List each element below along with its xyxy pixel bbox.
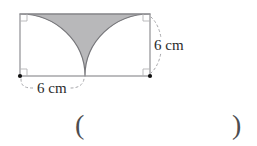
right-side-length-label: 6 cm [154,37,184,53]
answer-open-paren: ( [75,109,84,140]
bottom-length-label: 6 cm [37,80,67,96]
right-angle-mark-top-right-icon [143,14,150,21]
measure-leader-bottom-left [21,79,33,88]
worksheet-figure: 6 cm 6 cm ( ) [0,0,257,146]
shaded-region [20,14,150,76]
answer-close-paren: ) [232,109,241,140]
geometry-figure: 6 cm 6 cm ( ) [0,0,257,146]
right-angle-mark-top-left-icon [20,14,27,21]
center-dot-bottom-left [18,74,22,78]
center-dot-bottom-right [148,74,152,78]
measure-leader-bottom-right [71,79,84,88]
